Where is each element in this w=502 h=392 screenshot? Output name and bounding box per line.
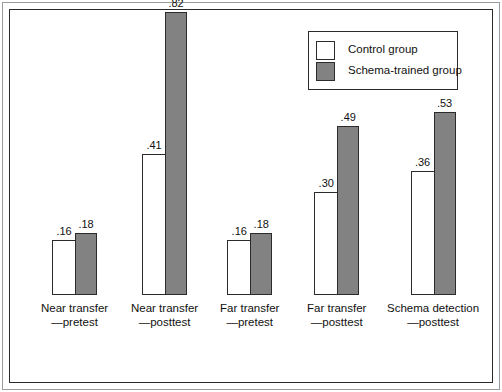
bar-value-label: .36	[415, 157, 430, 168]
bar-value-label: .18	[78, 219, 93, 230]
bar-value-label: .30	[319, 178, 334, 189]
bar-schema-trained: .82	[165, 12, 187, 295]
bar-control: .36	[411, 171, 435, 295]
bar-chart-figure: Control group Schema-trained group .16 .…	[0, 0, 502, 392]
group-label-line1: Near transfer	[41, 302, 108, 314]
bar-schema-trained: .18	[250, 233, 272, 295]
bar-group-schema-detection-posttest: .36 .53 Schema detection —posttest	[387, 0, 479, 329]
bar-value-label: .53	[437, 98, 452, 109]
bar-control: .16	[52, 240, 76, 295]
group-label-line2: —pretest	[220, 315, 279, 329]
group-label-line2: —posttest	[307, 315, 366, 329]
x-axis-group-label: Far transfer —posttest	[307, 301, 366, 329]
bar-pair: .30 .49	[307, 0, 366, 295]
bar-group-near-transfer-pretest: .16 .18 Near transfer —pretest	[41, 0, 108, 329]
bar-group-near-transfer-posttest: .41 .82 Near transfer —posttest	[131, 0, 198, 329]
x-axis-group-label: Near transfer —pretest	[41, 301, 108, 329]
bar-control: .41	[142, 154, 166, 295]
bar-control: .30	[314, 192, 338, 295]
bar-pair: .16 .18	[41, 0, 108, 295]
group-label-line2: —pretest	[41, 315, 108, 329]
group-label-line1: Far transfer	[220, 302, 279, 314]
plot-area: Control group Schema-trained group .16 .…	[9, 9, 493, 383]
bar-value-label: .16	[232, 226, 247, 237]
group-label-line2: —posttest	[131, 315, 198, 329]
group-label-line1: Near transfer	[131, 302, 198, 314]
bar-groups: .16 .18 Near transfer —pretest .41	[9, 9, 493, 383]
group-label-line1: Far transfer	[307, 302, 366, 314]
bar-pair: .36 .53	[387, 0, 479, 295]
bar-control: .16	[227, 240, 251, 295]
group-label-line1: Schema detection	[387, 302, 479, 314]
bar-group-far-transfer-posttest: .30 .49 Far transfer —posttest	[307, 0, 366, 329]
bar-value-label: .49	[341, 112, 356, 123]
bar-group-far-transfer-pretest: .16 .18 Far transfer —pretest	[220, 0, 279, 329]
bar-pair: .41 .82	[131, 0, 198, 295]
bar-value-label: .16	[56, 226, 71, 237]
bar-value-label: .82	[168, 0, 183, 9]
x-axis-group-label: Far transfer —pretest	[220, 301, 279, 329]
bar-schema-trained: .49	[337, 126, 359, 295]
bar-value-label: .18	[254, 219, 269, 230]
x-axis-group-label: Near transfer —posttest	[131, 301, 198, 329]
group-label-line2: —posttest	[387, 315, 479, 329]
bar-value-label: .41	[146, 140, 161, 151]
bar-schema-trained: .18	[75, 233, 97, 295]
bar-pair: .16 .18	[220, 0, 279, 295]
bar-schema-trained: .53	[434, 112, 456, 295]
x-axis-group-label: Schema detection —posttest	[387, 301, 479, 329]
